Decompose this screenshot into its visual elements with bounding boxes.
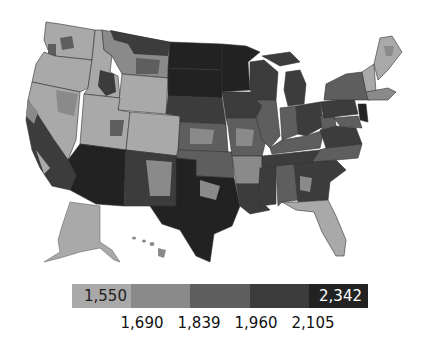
legend-segment-4 — [250, 284, 309, 308]
region-mississippi — [258, 166, 276, 206]
legend-tick-3: 1,960 — [235, 314, 278, 332]
region-indiana — [280, 106, 298, 140]
legend-ticks: 1,690 1,839 1,960 2,105 — [72, 314, 368, 336]
legend-tick-1: 1,690 — [121, 314, 164, 332]
legend-segment-3 — [190, 284, 249, 308]
region-south-dakota — [168, 68, 222, 98]
region-arkansas — [232, 156, 262, 184]
region-alaska — [44, 202, 120, 262]
legend-tick-2: 1,839 — [178, 314, 221, 332]
alaska — [44, 202, 120, 262]
legend-segment-2 — [131, 284, 190, 308]
region-wisconsin — [250, 60, 278, 100]
legend-segment-5: 2,342 — [309, 284, 368, 308]
region-north-dakota — [168, 42, 222, 70]
legend-color-bar: 1,550 2,342 — [72, 284, 368, 308]
region-maine — [374, 36, 402, 80]
region-wyoming — [118, 74, 168, 114]
region-ohio — [296, 102, 324, 136]
region-michigan — [284, 70, 306, 106]
legend-segment-1: 1,550 — [72, 284, 131, 308]
legend-min-label: 1,550 — [84, 287, 127, 305]
region-pennsylvania — [320, 98, 358, 118]
region-arizona — [68, 144, 126, 206]
legend-max-label: 2,342 — [319, 287, 362, 305]
us-choropleth-map — [0, 0, 440, 280]
region-virginia — [320, 126, 362, 148]
region-new-jersey — [358, 104, 368, 122]
region-colorado — [126, 112, 180, 156]
region-florida — [282, 200, 346, 256]
hawaii — [132, 237, 166, 259]
legend-tick-4: 2,105 — [292, 314, 335, 332]
